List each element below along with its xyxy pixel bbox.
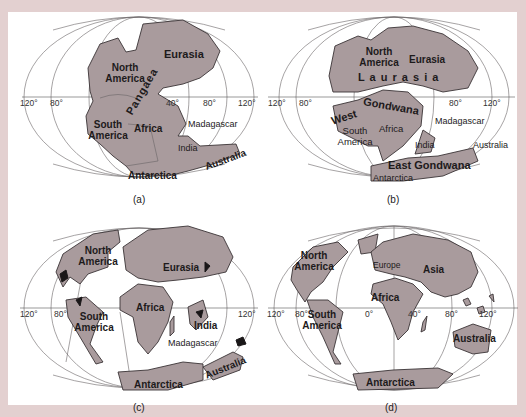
label-africa: Africa — [379, 123, 403, 134]
tick-80w: 80° — [295, 309, 308, 319]
tick-120w: 120° — [267, 309, 285, 319]
label-antarctica: Antarctica — [373, 173, 413, 184]
tick-120e: 120° — [479, 309, 497, 319]
tick-80w: 80° — [54, 309, 67, 319]
eurasia-landmass — [123, 226, 233, 282]
tick-120w: 120° — [20, 98, 38, 108]
map-panel-a: Eurasia North America Pangaea South Amer… — [8, 6, 271, 206]
tick-120e: 120° — [238, 98, 256, 108]
tick-40e: 40° — [166, 98, 179, 108]
label-antarctica: Antarctica — [366, 377, 415, 388]
label-africa: Africa — [134, 123, 162, 134]
tick-40e: 40° — [408, 309, 421, 319]
label-australia: Australia — [473, 140, 508, 151]
label-europe: Europe — [373, 260, 400, 271]
label-north-america: North America — [359, 46, 399, 68]
hotspot-marker — [236, 337, 246, 346]
tick-120w: 120° — [20, 309, 38, 319]
label-south-america: South America — [335, 125, 375, 147]
caption-a: (a) — [133, 194, 145, 205]
island-landmass — [463, 298, 471, 306]
madagascar-landmass — [421, 316, 427, 332]
tick-80e: 80° — [449, 98, 462, 108]
label-south-america: South America — [88, 119, 128, 141]
label-australia: Australia — [453, 333, 496, 344]
label-africa: Africa — [136, 302, 164, 313]
label-north-america: North America — [293, 250, 335, 272]
madagascar-landmass — [170, 316, 174, 336]
map-panel-c: North America Eurasia Africa South Ameri… — [8, 212, 271, 412]
caption-b: (b) — [387, 194, 399, 205]
label-madagascar: Madagascar — [188, 119, 238, 130]
label-eurasia: Eurasia — [164, 49, 204, 60]
label-madagascar: Madagascar — [168, 338, 218, 349]
label-south-america: South America — [74, 311, 114, 333]
label-antarctica: Antarctica — [134, 379, 183, 390]
label-eurasia: Eurasia — [409, 54, 445, 65]
label-east-gondwana: East Gondwana — [388, 160, 471, 171]
map-panel-b: North America Eurasia L a u r a s i a Go… — [263, 6, 526, 206]
tick-80e: 80° — [203, 98, 216, 108]
tick-80w: 80° — [50, 98, 63, 108]
label-antarctica: Antarctica — [128, 170, 177, 181]
label-india: India — [194, 320, 217, 331]
label-asia: Asia — [423, 264, 444, 275]
label-india: India — [415, 140, 435, 151]
pangaea-landmass — [86, 20, 240, 176]
label-india: India — [178, 143, 198, 154]
tick-80e: 80° — [445, 309, 458, 319]
caption-d: (d) — [385, 402, 397, 413]
map-panel-d: North America Europe Asia Africa South A… — [263, 212, 526, 412]
label-north-america: North America — [78, 245, 118, 267]
label-laurasia: L a u r a s i a — [358, 72, 439, 83]
label-africa: Africa — [371, 292, 399, 303]
label-madagascar: Madagascar — [435, 116, 485, 127]
tick-120e: 120° — [238, 309, 256, 319]
tick-120e: 120° — [483, 98, 501, 108]
label-eurasia: Eurasia — [163, 262, 199, 273]
tick-0: 0° — [365, 309, 373, 319]
tick-120w: 120° — [268, 98, 286, 108]
africa-landmass — [120, 284, 173, 354]
caption-c: (c) — [133, 402, 145, 413]
tick-80w: 80° — [299, 98, 312, 108]
